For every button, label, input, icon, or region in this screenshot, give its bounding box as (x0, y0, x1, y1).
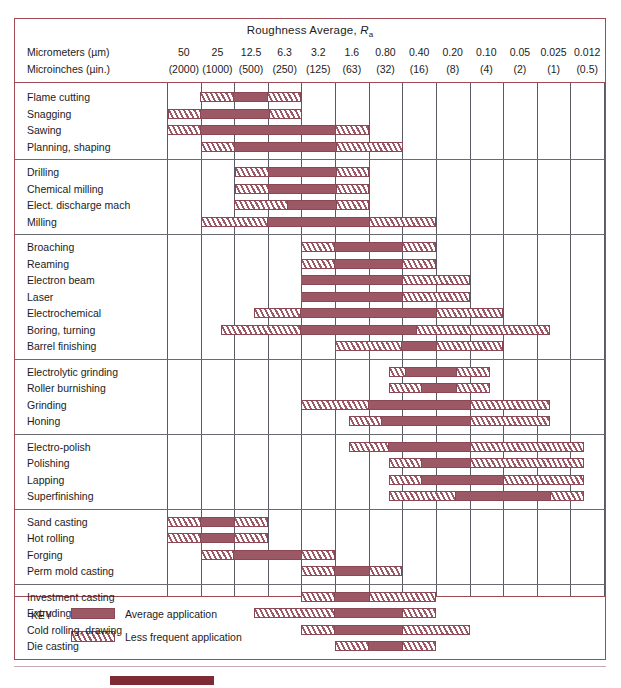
bar-segment-hatch (221, 325, 302, 335)
group-separator-5 (15, 584, 605, 585)
table-row: Perm mold casting (15, 563, 605, 580)
process-label: Electrochemical (27, 307, 101, 319)
axis-tick-uin-1: (1000) (201, 63, 235, 75)
bar-segment-solid (369, 641, 403, 651)
table-row: Lapping (15, 472, 605, 489)
bar-segment-hatch (402, 275, 469, 285)
bar-segment-hatch (335, 125, 369, 135)
axis-tick-um-1: 25 (201, 46, 235, 58)
table-row: Electrolytic grinding (15, 364, 605, 381)
bar-segment-hatch (389, 367, 406, 377)
axis-tick-uin-2: (500) (234, 63, 268, 75)
table-row: Barrel finishing (15, 338, 605, 355)
process-label: Honing (27, 415, 60, 427)
process-label: Planning, shaping (27, 141, 110, 153)
axis-label-micrometers: Micrometers (µm) (27, 46, 109, 58)
bar-segment-solid (422, 458, 469, 468)
bar-segment-solid (201, 125, 335, 135)
axis-tick-um-8: 0.20 (436, 46, 470, 58)
bar-segment-solid (201, 517, 235, 527)
bar-segment-solid (335, 566, 369, 576)
process-label: Broaching (27, 241, 74, 253)
table-row: Reaming (15, 256, 605, 273)
axis-tick-uin-6: (32) (369, 63, 403, 75)
table-row: Superfinishing (15, 488, 605, 505)
table-row: Hot rolling (15, 530, 605, 547)
bar-segment-hatch (402, 242, 436, 252)
axis-tick-um-7: 0.40 (402, 46, 436, 58)
axis-tick-uin-8: (8) (436, 63, 470, 75)
bar-segment-hatch (336, 200, 370, 210)
process-label: Milling (27, 216, 57, 228)
bar-segment-solid (268, 217, 369, 227)
table-row: Milling (15, 214, 605, 231)
process-label: Hot rolling (27, 532, 74, 544)
bar-segment-hatch (389, 458, 423, 468)
bar-segment-solid (234, 550, 301, 560)
legend-swatch-average (71, 608, 115, 619)
bar-segment-solid (335, 259, 402, 269)
bar-segment-solid (301, 292, 402, 302)
bar-segment-solid (335, 608, 402, 618)
title-subscript: a (369, 30, 374, 39)
bar-segment-hatch (389, 383, 423, 393)
axis-row-micrometers: Micrometers (µm) 502512.56.33.21.60.800.… (15, 46, 605, 61)
bar-segment-hatch (254, 608, 335, 618)
bar-segment-hatch (402, 292, 469, 302)
bar-segment-solid (369, 400, 470, 410)
bar-segment-solid (301, 275, 402, 285)
bar-segment-hatch (550, 491, 584, 501)
process-label: Investment casting (27, 591, 115, 603)
axis-tick-uin-12: (0.5) (570, 63, 604, 75)
bar-segment-hatch (349, 416, 383, 426)
group-separator-4 (15, 509, 605, 510)
axis-tick-um-2: 12.5 (234, 46, 268, 58)
table-row: Elect. discharge mach (15, 197, 605, 214)
table-row: Grinding (15, 397, 605, 414)
bar-segment-hatch (402, 259, 436, 269)
surface-roughness-chart-page: Roughness Average, Ra Micrometers (µm) 5… (0, 0, 621, 688)
table-row: Flame cutting (15, 89, 605, 106)
process-label: Chemical milling (27, 183, 103, 195)
bar-segment-solid (406, 367, 456, 377)
axis-tick-uin-11: (1) (537, 63, 571, 75)
process-label: Cold rolling, drawing (27, 624, 122, 636)
bar-segment-hatch (436, 341, 503, 351)
bar-segment-hatch (235, 184, 269, 194)
bar-segment-solid (335, 592, 369, 602)
axis-label-microinches: Microinches (µin.) (27, 63, 110, 75)
axis-tick-uin-0: (2000) (167, 63, 201, 75)
axis-tick-um-10: 0.05 (503, 46, 537, 58)
process-label: Forging (27, 549, 63, 561)
process-label: Electron beam (27, 274, 95, 286)
process-label: Roller burnishing (27, 382, 106, 394)
bar-segment-hatch (301, 259, 335, 269)
axis-row-microinches: Microinches (µin.) (2000)(1000)(500)(250… (15, 63, 605, 78)
axis-tick-um-0: 50 (167, 46, 201, 58)
table-row: Boring, turning (15, 322, 605, 339)
table-row: Broaching (15, 239, 605, 256)
bar-segment-solid (382, 416, 469, 426)
process-label: Superfinishing (27, 490, 94, 502)
table-row: Forging (15, 547, 605, 564)
axis-tick-uin-9: (4) (470, 63, 504, 75)
bar-segment-solid (301, 325, 415, 335)
process-label: Reaming (27, 258, 69, 270)
axis-tick-uin-5: (63) (335, 63, 369, 75)
bar-segment-hatch (201, 217, 268, 227)
table-row: Laser (15, 289, 605, 306)
bar-segment-hatch (335, 341, 402, 351)
group-separator-2 (15, 359, 605, 360)
group-separator-3 (15, 434, 605, 435)
axis-tick-um-11: 0.025 (537, 46, 571, 58)
bar-segment-hatch (201, 550, 235, 560)
bar-segment-solid (456, 491, 550, 501)
axis-tick-um-3: 6.3 (268, 46, 302, 58)
group-separator-1 (15, 234, 605, 235)
axis-tick-um-4: 3.2 (301, 46, 335, 58)
axis-tick-um-5: 1.6 (335, 46, 369, 58)
bar-segment-hatch (200, 92, 234, 102)
process-label: Polishing (27, 457, 70, 469)
bar-segment-hatch (389, 491, 456, 501)
page-title: Roughness Average, Ra (15, 24, 605, 39)
